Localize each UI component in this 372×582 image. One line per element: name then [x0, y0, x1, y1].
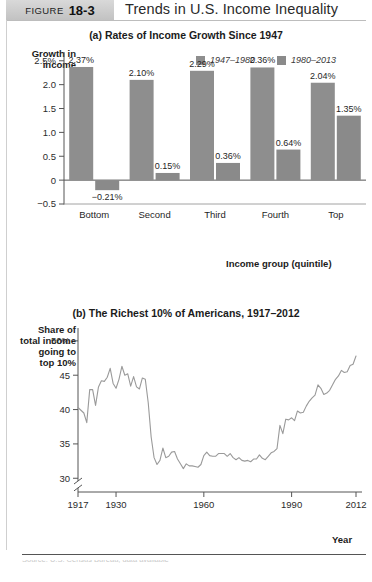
header-divider	[6, 20, 366, 21]
panel-a-y-tick: 0	[51, 175, 56, 186]
panel-a-category-label: Top	[328, 209, 343, 220]
bar-top-series1	[311, 83, 335, 180]
bar-value-label: 2.36%	[250, 55, 276, 65]
bar-value-label: 2.29%	[189, 59, 215, 69]
panel-b-x-tick: 1990	[281, 499, 302, 510]
bar-second-series2	[156, 173, 180, 180]
panel-b-y-tick: 50%	[51, 335, 71, 346]
panel-a-y-tick: 1.0	[43, 127, 56, 138]
panel-a-y-tick: 0.5	[43, 151, 56, 162]
bar-value-label: 2.04%	[310, 71, 336, 81]
bar-value-label: 0.15%	[155, 161, 181, 171]
panel-b-data-line	[78, 356, 356, 469]
panel-b-x-tick: 1930	[105, 499, 126, 510]
bar-fourth-series2	[276, 150, 300, 181]
bar-value-label: 0.36%	[215, 151, 241, 161]
bar-value-label: 2.10%	[129, 68, 155, 78]
panel-a-x-axis-label: Income group (quintile)	[226, 258, 332, 269]
panel-a-bar-chart: −0.500.51.01.52.02.5%2.37%−0.21%Bottom2.…	[0, 44, 372, 259]
panel-a-y-tick: 2.0	[43, 79, 56, 90]
panel-b-title: (b) The Richest 10% of Americans, 1917–2…	[0, 307, 372, 319]
panel-b-y-tick: 45	[59, 370, 70, 381]
bar-value-label: −0.21%	[92, 192, 123, 202]
panel-a-title: (a) Rates of Income Growth Since 1947	[0, 29, 372, 41]
panel-b-x-axis-label: Year	[332, 534, 352, 545]
panel-b-x-tick: 2012	[345, 499, 366, 510]
panel-a-y-tick: 1.5	[43, 103, 56, 114]
panel-a-category-label: Bottom	[79, 209, 109, 220]
figure-tag-number: 18-3	[69, 3, 95, 18]
bar-third-series1	[190, 71, 214, 180]
panel-a-category-label: Third	[204, 209, 226, 220]
source-note: Source: U.S. Census Bureau; data availab…	[22, 560, 366, 582]
bar-value-label: 1.35%	[336, 104, 362, 114]
panel-b-y-tick: 30	[59, 473, 70, 484]
bar-fourth-series1	[250, 67, 274, 180]
panel-b-line-chart: 3035404550%19171930196019902012	[0, 320, 372, 535]
figure-header: FIGURE 18-3 Trends in U.S. Income Inequa…	[0, 0, 372, 21]
bar-bottom-series1	[69, 67, 93, 180]
panel-b-y-tick: 35	[59, 438, 70, 449]
panel-b-x-tick: 1917	[67, 499, 88, 510]
footer-divider	[22, 554, 366, 555]
panel-a-category-label: Second	[138, 209, 170, 220]
bar-bottom-series2	[95, 180, 119, 190]
figure-tag-word: FIGURE	[25, 5, 63, 16]
panel-a-category-label: Fourth	[262, 209, 289, 220]
panel-a-y-tick: 2.5%	[34, 55, 56, 66]
figure-title: Trends in U.S. Income Inequality	[125, 1, 338, 17]
bar-second-series1	[130, 80, 154, 180]
bar-value-label: 0.64%	[276, 138, 302, 148]
bar-value-label: 2.37%	[68, 55, 94, 65]
source-note-text: Source: U.S. Census Bureau; data availab…	[22, 560, 366, 564]
panel-b-y-tick: 40	[59, 404, 70, 415]
bar-top-series2	[337, 116, 361, 180]
panel-b-x-tick: 1960	[193, 499, 214, 510]
bar-third-series2	[216, 163, 240, 180]
figure-tag: FIGURE 18-3	[6, 0, 114, 20]
panel-a-y-tick: −0.5	[37, 198, 56, 209]
